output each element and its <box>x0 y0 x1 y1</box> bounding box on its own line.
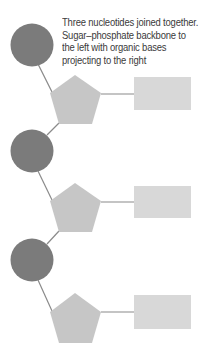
sugar-pentagon-3 <box>50 293 101 343</box>
caption-line-4: projecting to the right <box>62 54 193 67</box>
phosphate-circle-3 <box>11 239 54 282</box>
caption-line-3: the left with organic bases <box>62 41 193 54</box>
base-rectangle-1 <box>134 77 191 110</box>
bond-sugar2-phosphate3 <box>47 231 59 244</box>
bond-sugar1-phosphate2 <box>47 123 59 135</box>
bond-phosphate2-sugar2 <box>38 171 52 200</box>
base-rectangle-2 <box>134 186 191 218</box>
bond-phosphate3-sugar3 <box>38 280 52 311</box>
phosphate-circle-2 <box>11 130 54 173</box>
caption-line-1: Three nucleotides joined together. <box>62 16 193 29</box>
diagram-caption: Three nucleotides joined together. Sugar… <box>62 16 193 66</box>
base-rectangle-3 <box>134 295 191 329</box>
caption-line-2: Sugar–phosphate backbone to <box>62 29 193 42</box>
sugar-pentagon-1 <box>50 75 101 124</box>
bond-phosphate1-sugar1 <box>38 64 52 92</box>
sugar-pentagon-2 <box>50 183 101 232</box>
phosphate-circle-1 <box>11 24 54 67</box>
